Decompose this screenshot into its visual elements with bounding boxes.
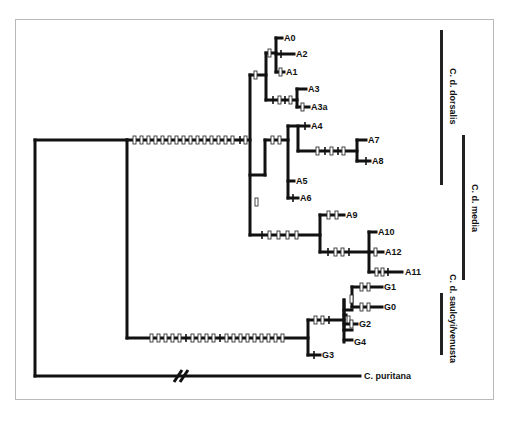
leaf-label: A4: [311, 121, 323, 131]
group-label-media: C. d. media: [470, 184, 480, 233]
leaf-label: A10: [378, 227, 395, 237]
group-bar-dorsalis: [440, 30, 443, 185]
leaf-label: A3a: [311, 102, 329, 112]
group-label-dorsalis: C. d. dorsalis: [448, 68, 458, 125]
leaf-label: G2: [359, 319, 371, 329]
leaf-label: G3: [322, 350, 334, 360]
leaf-label: A8: [372, 156, 384, 166]
g-clade: [127, 283, 382, 359]
leaf-label: G0: [384, 302, 396, 312]
leaf-label: A12: [385, 247, 402, 257]
leaf-label: A2: [296, 49, 308, 59]
media-lower-subclade: [250, 211, 402, 276]
phylogenetic-tree: A0 A2 A1 A3 A3a A4 A7 A8 A5 A6 A9 A10 A1…: [0, 0, 510, 421]
leaf-label: A7: [368, 135, 380, 145]
group-label-saulcyi: C. d. saulcyi/venusta: [448, 274, 458, 364]
leaf-label: A6: [300, 193, 312, 203]
leaf-label: A1: [286, 67, 298, 77]
leaf-label: G4: [354, 337, 366, 347]
root-branches: [35, 140, 360, 376]
outgroup-label: C. puritana: [364, 371, 412, 381]
leaf-label: A3: [308, 84, 320, 94]
group-brackets: C. d. dorsalis C. d. media C. d. saulcyi…: [440, 30, 480, 364]
leaf-label: A5: [296, 176, 308, 186]
group-bar-saulcyi: [440, 293, 443, 355]
leaf-label: A0: [284, 33, 296, 43]
a-clade-stem: [127, 75, 250, 235]
group-bar-media: [462, 135, 465, 280]
leaf-label: G1: [384, 282, 396, 292]
leaf-label: A9: [346, 210, 358, 220]
leaf-label: A11: [405, 267, 421, 277]
